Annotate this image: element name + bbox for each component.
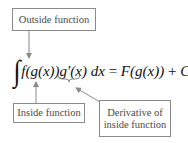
plus-sign: + <box>164 63 180 80</box>
outside-function-text: Outside function <box>19 14 89 26</box>
integrand-outer-function: f(g(x)) <box>21 63 59 80</box>
derivative-arrow <box>76 88 100 102</box>
integral-sign: ∫ <box>14 56 21 86</box>
outside-function-label: Outside function <box>12 8 96 31</box>
derivative-label-line-2: inside function <box>104 119 167 131</box>
inside-function-text: Inside function <box>17 107 80 119</box>
derivative-of-inside-function-label: Derivative of inside function <box>99 100 171 137</box>
inside-function-label: Inside function <box>13 103 85 123</box>
integrand-inner-derivative: g′(x) <box>60 63 87 80</box>
equals-sign: = <box>105 63 121 80</box>
differential-dx: dx <box>87 63 105 80</box>
antiderivative-composite: F(g(x)) <box>121 63 164 80</box>
constant-of-integration: C <box>180 63 188 80</box>
substitution-formula: ∫ f(g(x)) g′(x) dx = F(g(x)) + C <box>13 55 188 87</box>
derivative-label-line-1: Derivative of <box>107 107 163 119</box>
